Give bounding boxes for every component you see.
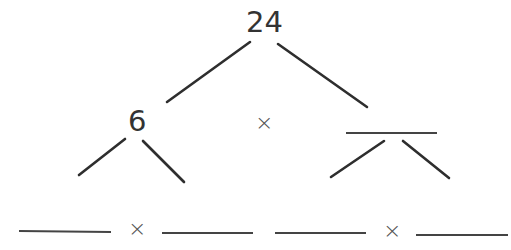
level2-right-times-sign: × <box>383 220 401 242</box>
branch-blank-left <box>331 141 384 177</box>
branch-root-right <box>278 44 367 107</box>
level2-left-times-sign: × <box>128 218 146 240</box>
branch-six-left <box>79 139 125 175</box>
level1-left-number: 6 <box>128 107 146 136</box>
branch-blank-right <box>403 141 449 178</box>
branch-root-left <box>167 42 250 102</box>
blank-level2-1[interactable] <box>19 231 111 232</box>
branch-six-right <box>143 141 184 182</box>
level1-times-sign: × <box>255 112 273 134</box>
root-number: 24 <box>246 8 283 37</box>
